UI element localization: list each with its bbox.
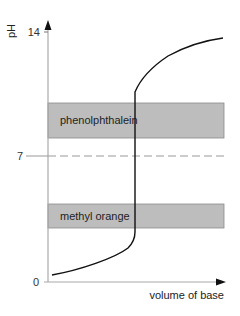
methyl-orange-label: methyl orange — [60, 210, 130, 222]
tick-label-0: 0 — [33, 276, 39, 288]
y-axis-arrow-icon — [45, 20, 52, 30]
phenolphthalein-label: phenolphthalein — [60, 114, 138, 126]
tick-label-7: 7 — [17, 150, 23, 162]
x-axis-label: volume of base — [149, 289, 224, 301]
titration-chart: 14 7 0 pH volume of base phenolphthalein… — [0, 0, 240, 316]
y-axis-label: pH — [5, 24, 17, 38]
tick-label-14: 14 — [28, 26, 40, 38]
x-axis-arrow-icon — [216, 279, 226, 286]
